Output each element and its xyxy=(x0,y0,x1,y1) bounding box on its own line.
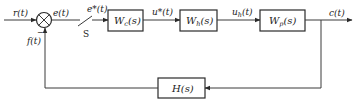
switch-label: S xyxy=(83,29,89,39)
feedback-block-label: H(s) xyxy=(171,83,194,94)
error-signal-label: e(t) xyxy=(53,8,69,18)
plant-block: Wp(s) xyxy=(260,10,305,31)
output-signal-label: c(t) xyxy=(329,8,345,18)
sampler-switch xyxy=(78,16,92,26)
summing-junction xyxy=(37,13,52,28)
feedback-signal-label: f(t) xyxy=(26,36,41,46)
input-signal-label: r(t) xyxy=(13,8,28,18)
controller-output-label: u*(t) xyxy=(152,7,173,17)
block-diagram: r(t) − e(t) S e*(t) Wc(s) u*(t) Wh(s) uh… xyxy=(0,0,358,107)
sampled-error-label: e*(t) xyxy=(87,4,108,14)
feedback-block: H(s) xyxy=(158,78,205,98)
controller-block: Wc(s) xyxy=(108,10,143,31)
hold-block: Wh(s) xyxy=(180,10,217,31)
feedback-return-line xyxy=(45,28,158,88)
hold-output-label: uh(t) xyxy=(232,7,253,19)
